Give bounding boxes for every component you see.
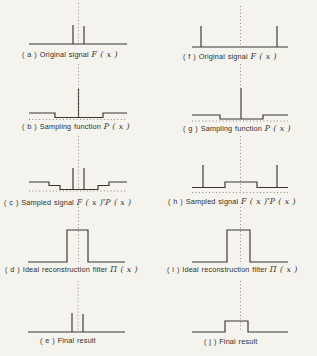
caption-j: ( j ) Final result <box>204 337 257 346</box>
caption-c-text: ( c ) Sampled signal <box>4 198 77 207</box>
caption-c-math2: P ( x ) <box>105 198 131 207</box>
caption-g-math1: P ( x ) <box>265 124 291 133</box>
caption-h-math2: P ( x ) <box>270 197 296 206</box>
caption-b-text: ( b ) Sampling function <box>22 122 104 131</box>
caption-d-math1: Π ( x ) <box>110 265 138 274</box>
caption-f: ( f ) Original signal F ( x ) <box>183 52 277 61</box>
caption-c: ( c ) Sampled signal F ( x )*P ( x ) <box>4 196 131 207</box>
caption-i-math1: Π ( x ) <box>270 265 298 274</box>
caption-g: ( g ) Sampling function P ( x ) <box>183 124 291 133</box>
caption-a-text: ( a ) Original signal <box>22 50 92 59</box>
caption-h-math1: F ( x ) <box>241 197 267 206</box>
caption-i: ( i ) Ideal reconstruction filter Π ( x … <box>167 265 297 274</box>
panel-d-solid-line-0 <box>28 230 125 262</box>
caption-e: ( e ) Final result <box>40 336 96 345</box>
caption-f-text: ( f ) Original signal <box>183 52 251 61</box>
sampling-aliasing-figure: ( a ) Original signal F ( x )( b ) Sampl… <box>0 0 317 356</box>
caption-f-math1: F ( x ) <box>251 52 277 61</box>
caption-i-text: ( i ) Ideal reconstruction filter <box>167 265 270 274</box>
panel-c-solid-line-0 <box>29 182 127 190</box>
caption-j-text: ( j ) Final result <box>204 337 257 346</box>
panel-h-solid-line-0 <box>192 182 288 188</box>
caption-b-math1: P ( x ) <box>104 122 130 131</box>
caption-a: ( a ) Original signal F ( x ) <box>22 50 118 59</box>
caption-h: ( h ) Sampled signal F ( x )*P ( x ) <box>168 195 296 206</box>
caption-d: ( d ) Ideal reconstruction filter Π ( x … <box>5 265 138 274</box>
caption-e-text: ( e ) Final result <box>40 336 96 345</box>
caption-h-text: ( h ) Sampled signal <box>168 197 241 206</box>
caption-b: ( b ) Sampling function P ( x ) <box>22 122 130 131</box>
caption-c-math1: F ( x ) <box>77 198 103 207</box>
caption-d-text: ( d ) Ideal reconstruction filter <box>5 265 110 274</box>
caption-a-math1: F ( x ) <box>92 50 118 59</box>
caption-g-text: ( g ) Sampling function <box>183 124 265 133</box>
